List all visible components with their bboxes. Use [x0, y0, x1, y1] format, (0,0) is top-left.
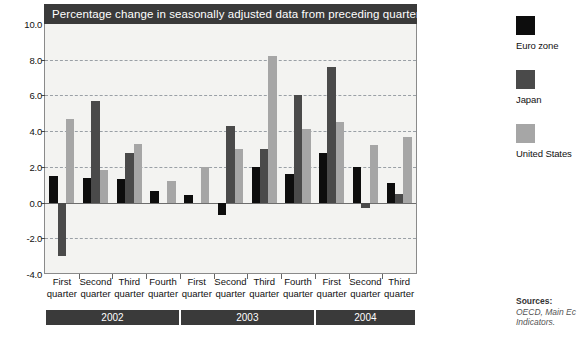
x-axis-label: Thirdquarter [112, 276, 146, 299]
x-axis-tick-mark [146, 274, 147, 279]
y-axis-tick-label: 2.0 [2, 161, 42, 172]
x-axis-label-line-2: quarter [45, 288, 79, 300]
x-axis-label-line-2: quarter [112, 288, 146, 300]
bar [395, 194, 403, 203]
bar [150, 191, 158, 203]
bar [201, 167, 209, 203]
bar [268, 56, 276, 202]
x-axis-label-line-1: Second [79, 276, 113, 288]
bar [319, 153, 327, 203]
bar [353, 167, 361, 203]
x-axis-label: Firstquarter [315, 276, 349, 299]
bar [285, 174, 293, 203]
x-axis-tick-mark [281, 274, 282, 279]
bar [252, 167, 260, 203]
year-band-label: 2002 [46, 310, 179, 325]
x-axis-tick-mark [315, 274, 316, 279]
x-axis-label: Thirdquarter [382, 276, 416, 299]
x-axis-label-line-2: quarter [349, 288, 383, 300]
bar [117, 179, 125, 202]
x-axis-label: Thirdquarter [247, 276, 281, 299]
legend-label: Japan [516, 94, 541, 105]
gridline [45, 238, 416, 239]
bar [226, 126, 234, 203]
bar [58, 203, 66, 257]
bar [302, 129, 310, 202]
x-axis-label-line-1: First [180, 276, 214, 288]
x-axis-label-line-1: Third [112, 276, 146, 288]
legend-item: Japan [516, 70, 541, 105]
x-axis-label-line-1: Fourth [281, 276, 315, 288]
legend-label: Euro zone [516, 40, 558, 51]
bar [260, 149, 268, 203]
x-axis-tick-mark [247, 274, 248, 279]
y-axis: -4.0-2.00.02.04.06.08.010.0 [0, 24, 42, 274]
x-axis-tick-mark [349, 274, 350, 279]
sources-heading: Sources: [516, 296, 583, 307]
bar [336, 122, 344, 202]
bar [83, 178, 91, 203]
x-axis-label-line-2: quarter [281, 288, 315, 300]
bar [294, 95, 302, 202]
x-axis-label-line-1: Third [382, 276, 416, 288]
x-axis-label-line-2: quarter [382, 288, 416, 300]
x-axis-labels: FirstquarterSecondquarterThirdquarterFou… [45, 276, 416, 308]
bar [184, 195, 192, 202]
year-band-label: 2004 [316, 310, 415, 325]
x-axis-label: Secondquarter [349, 276, 383, 299]
y-axis-tick-label: -2.0 [2, 233, 42, 244]
legend-item: Euro zone [516, 16, 558, 51]
bar [235, 149, 243, 203]
y-axis-tick-label: 10.0 [2, 19, 42, 30]
bar [387, 183, 395, 203]
x-axis-label-line-1: Fourth [146, 276, 180, 288]
legend-swatch [516, 124, 535, 143]
chart-figure: Percentage change in seasonally adjusted… [0, 0, 583, 340]
x-axis-label-line-1: Second [214, 276, 248, 288]
x-axis-label-line-1: First [315, 276, 349, 288]
bar [361, 203, 369, 208]
x-axis-label: Firstquarter [180, 276, 214, 299]
x-axis-label: Fourthquarter [281, 276, 315, 299]
sources-line-2: Indicators. [516, 317, 583, 328]
x-axis-tick-mark [382, 274, 383, 279]
y-axis-tick-label: 6.0 [2, 90, 42, 101]
bar [125, 153, 133, 203]
bar [167, 181, 175, 202]
sources-note: Sources: OECD, Main Ec Indicators. [516, 296, 583, 328]
x-axis-label: Firstquarter [45, 276, 79, 299]
bar [91, 101, 99, 203]
gridline [45, 95, 416, 96]
bar [370, 145, 378, 202]
gridline [45, 60, 416, 61]
y-axis-tick-label: -4.0 [2, 269, 42, 280]
bar [100, 170, 108, 202]
x-axis-label-line-2: quarter [214, 288, 248, 300]
bar [66, 119, 74, 203]
x-axis-label-line-2: quarter [180, 288, 214, 300]
year-band-label: 2003 [181, 310, 314, 325]
x-axis-tick-mark [180, 274, 181, 279]
x-axis-label: Secondquarter [214, 276, 248, 299]
x-axis-label-line-1: Third [247, 276, 281, 288]
x-axis-tick-mark [112, 274, 113, 279]
x-axis-label-line-1: Second [349, 276, 383, 288]
plot-area [45, 24, 416, 274]
x-axis-label-line-2: quarter [146, 288, 180, 300]
bar [134, 144, 142, 203]
x-axis-tick-mark [79, 274, 80, 279]
legend-swatch [516, 70, 535, 89]
x-axis-label: Secondquarter [79, 276, 113, 299]
legend-label: United States [516, 148, 572, 159]
x-axis-label: Fourthquarter [146, 276, 180, 299]
bar [218, 203, 226, 216]
y-axis-tick-label: 0.0 [2, 197, 42, 208]
x-axis-label-line-1: First [45, 276, 79, 288]
bar [49, 176, 57, 203]
bar [403, 137, 411, 203]
x-axis-label-line-2: quarter [247, 288, 281, 300]
chart-title: Percentage change in seasonally adjusted… [44, 4, 417, 24]
x-axis-label-line-2: quarter [315, 288, 349, 300]
x-axis-tick-mark [214, 274, 215, 279]
y-axis-tick-label: 4.0 [2, 126, 42, 137]
